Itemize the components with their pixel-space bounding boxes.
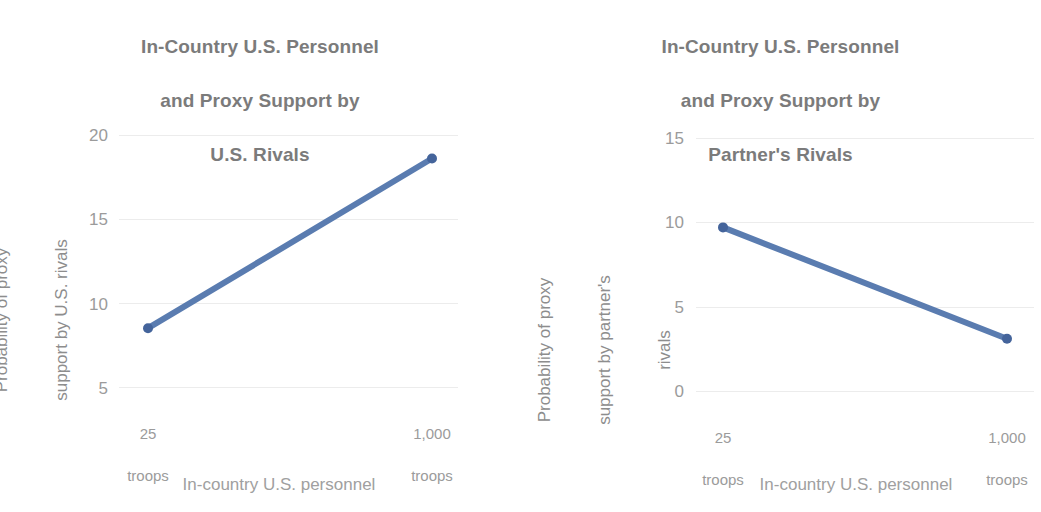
chart-title-left-line-2: and Proxy Support by (0, 87, 520, 114)
y-tick-label-left-5: 5 (62, 380, 108, 397)
plot-area-left (119, 135, 458, 387)
y-axis-title-right-line-2: support by partner's (590, 200, 620, 500)
series-line-right (696, 138, 1034, 391)
x-tick-label-right-25-troops-value: 25 (663, 427, 783, 448)
chart-title-right-line-1: In-Country U.S. Personnel (520, 33, 1041, 60)
y-tick-label-left-15: 15 (62, 211, 108, 228)
x-tick-label-left-25-troops-value: 25 (88, 423, 208, 444)
x-tick-label-right-1000-troops: 1,000 troops (947, 406, 1041, 511)
series-line-left (119, 135, 458, 387)
y-tick-label-right-10: 10 (638, 214, 684, 231)
x-tick-label-left-1000-troops-value: 1,000 (372, 423, 492, 444)
y-tick-label-right-5: 5 (638, 299, 684, 316)
gridline-left-5 (119, 387, 458, 388)
y-tick-label-left-20: 20 (62, 127, 108, 144)
y-tick-label-right-15: 15 (638, 130, 684, 147)
data-point-left-1000-troops (427, 154, 437, 164)
plot-area-right (696, 138, 1034, 391)
y-axis-title-left-line-1: Probability of proxy (0, 170, 17, 470)
x-tick-label-right-1000-troops-value: 1,000 (947, 427, 1041, 448)
x-axis-title-right: In-country U.S. personnel (656, 475, 1041, 495)
y-axis-title-right-line-1: Probability of proxy (530, 200, 560, 500)
x-tick-label-right-25-troops: 25 troops (663, 406, 783, 511)
gridline-right-0 (696, 391, 1034, 392)
chart-figure: In-Country U.S. Personnel and Proxy Supp… (0, 0, 1041, 512)
series-segment-left (148, 159, 432, 329)
chart-panel-partner-rivals: In-Country U.S. Personnel and Proxy Supp… (520, 0, 1041, 512)
chart-panel-us-rivals: In-Country U.S. Personnel and Proxy Supp… (0, 0, 520, 512)
data-point-right-25-troops (718, 222, 728, 232)
y-tick-label-left-10: 10 (62, 296, 108, 313)
chart-title-right-line-2: and Proxy Support by (520, 87, 1041, 114)
data-point-left-25-troops (143, 323, 153, 333)
series-segment-right (723, 227, 1007, 338)
y-tick-label-right-0: 0 (638, 383, 684, 400)
data-point-right-1000-troops (1002, 334, 1012, 344)
x-axis-title-left: In-country U.S. personnel (79, 475, 479, 495)
chart-title-left-line-1: In-Country U.S. Personnel (0, 33, 520, 60)
